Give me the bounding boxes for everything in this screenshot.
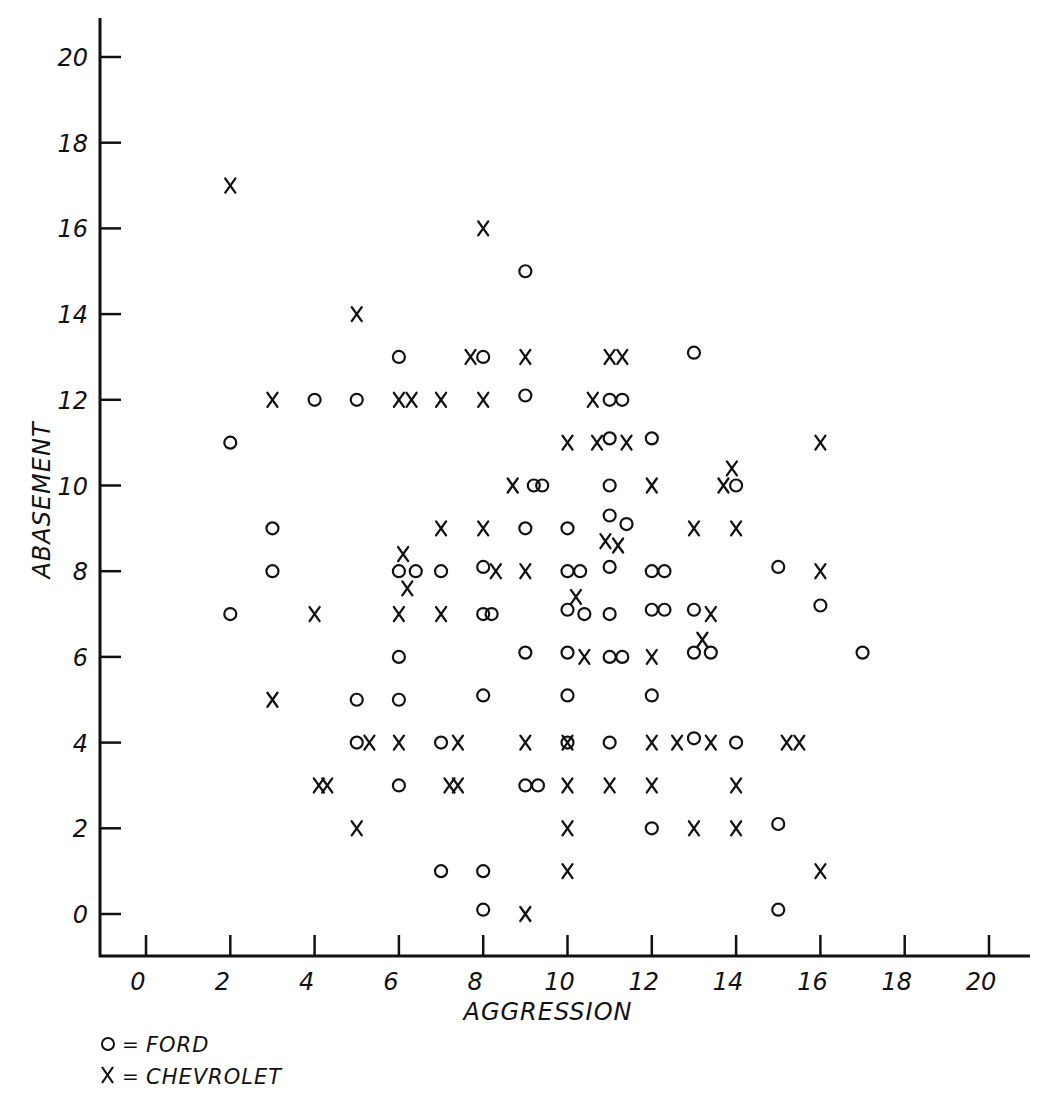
chevrolet-point: [647, 736, 657, 750]
ford-point: [616, 394, 628, 406]
ford-point: [519, 647, 531, 659]
chevrolet-point: [689, 521, 699, 535]
chevrolet-point: [225, 179, 235, 193]
chevrolet-point: [697, 633, 707, 647]
ford-point: [410, 565, 422, 577]
chevrolet-point: [364, 736, 374, 750]
chevrolet-point: [731, 521, 741, 535]
ford-point: [658, 565, 670, 577]
chevrolet-point: [815, 564, 825, 578]
ford-point: [435, 737, 447, 749]
x-tick-label: 10: [544, 968, 575, 996]
legend-equals: =: [122, 1064, 139, 1088]
chevrolet-point: [352, 307, 362, 321]
ford-point: [435, 865, 447, 877]
chevrolet-point: [520, 350, 530, 364]
ford-point: [562, 689, 574, 701]
data-points: [224, 179, 868, 921]
ford-point: [266, 522, 278, 534]
scatter-chart: 02468101214161820 02468101214161820 AGGR…: [0, 0, 1051, 1098]
ford-point: [688, 647, 700, 659]
chevrolet-point: [563, 821, 573, 835]
chevrolet-point: [520, 736, 530, 750]
chevrolet-point: [617, 350, 627, 364]
chevrolet-point: [453, 736, 463, 750]
ford-point: [351, 394, 363, 406]
y-tick-label: 20: [57, 44, 88, 72]
chevrolet-point: [394, 607, 404, 621]
chevrolet-point: [731, 821, 741, 835]
chevrolet-point: [571, 590, 581, 604]
ford-point: [621, 518, 633, 530]
ford-point: [688, 604, 700, 616]
x-axis-title: AGGRESSION: [462, 998, 633, 1026]
ford-point: [351, 694, 363, 706]
chevrolet-point: [689, 821, 699, 835]
chevrolet-point: [647, 778, 657, 792]
chevrolet-point: [520, 907, 530, 921]
ford-point: [604, 737, 616, 749]
ford-point: [536, 480, 548, 492]
x-tick-label: 20: [966, 968, 997, 996]
y-axis-title: ABASEMENT: [28, 420, 56, 581]
ford-point: [224, 437, 236, 449]
chevrolet-point: [436, 393, 446, 407]
ford-point: [604, 561, 616, 573]
x-tick-label: 8: [468, 968, 483, 996]
chevrolet-point: [622, 436, 632, 450]
ford-circle-icon: [102, 1038, 114, 1050]
chevrolet-point: [718, 479, 728, 493]
ford-point: [688, 347, 700, 359]
legend: = FORD = CHEVROLET: [102, 1032, 283, 1089]
legend-equals: =: [122, 1032, 139, 1056]
ford-point: [532, 779, 544, 791]
ford-point: [562, 565, 574, 577]
chevrolet-point: [508, 479, 518, 493]
chevrolet-point: [436, 521, 446, 535]
x-tick-label: 2: [215, 968, 230, 996]
chevrolet-point: [402, 581, 412, 595]
chevrolet-point: [310, 607, 320, 621]
axes: [99, 18, 1030, 957]
y-tick-label: 18: [57, 130, 88, 158]
ford-point: [562, 604, 574, 616]
ford-point: [435, 565, 447, 577]
chevrolet-point: [579, 650, 589, 664]
y-tick-label: 8: [73, 558, 88, 586]
y-tick-label: 4: [73, 730, 88, 758]
chevrolet-point: [491, 564, 501, 578]
ford-point: [562, 647, 574, 659]
chevrolet-point: [444, 778, 454, 792]
chevrolet-point: [478, 221, 488, 235]
y-tick-label: 16: [57, 215, 88, 243]
legend-label-chevrolet: CHEVROLET: [146, 1065, 283, 1089]
ford-point: [562, 522, 574, 534]
ford-point: [519, 522, 531, 534]
ford-point: [224, 608, 236, 620]
ford-point: [604, 432, 616, 444]
chevrolet-point: [398, 547, 408, 561]
ford-point: [646, 432, 658, 444]
chevrolet-point: [588, 393, 598, 407]
ford-point: [604, 394, 616, 406]
ford-point: [477, 351, 489, 363]
ford-point: [730, 737, 742, 749]
chevrolet-point: [322, 778, 332, 792]
ford-point: [393, 694, 405, 706]
legend-item-ford: = FORD: [102, 1032, 209, 1057]
ford-point: [857, 647, 869, 659]
y-tick-label: 0: [73, 901, 88, 929]
chevrolet-point: [267, 393, 277, 407]
chevrolet-point: [478, 393, 488, 407]
x-tick-label: 12: [629, 968, 660, 996]
ford-point: [393, 351, 405, 363]
chevrolet-point: [647, 479, 657, 493]
ford-point: [688, 732, 700, 744]
ford-point: [393, 651, 405, 663]
ford-point: [266, 565, 278, 577]
chevrolet-point: [394, 736, 404, 750]
ford-point: [705, 647, 717, 659]
chevrolet-point: [314, 778, 324, 792]
chevrolet-point: [407, 393, 417, 407]
chevrolet-point: [600, 534, 610, 548]
